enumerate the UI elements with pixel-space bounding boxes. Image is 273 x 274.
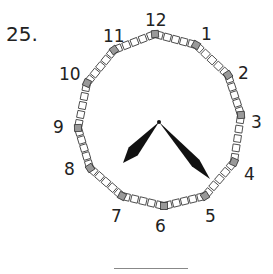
minute-tick <box>233 99 242 108</box>
minute-tick <box>80 92 88 100</box>
minute-tick <box>179 37 188 46</box>
hour-label-3: 3 <box>251 112 262 132</box>
minute-tick <box>130 195 138 203</box>
minute-tick <box>78 101 86 109</box>
hour-label-5: 5 <box>205 206 216 226</box>
minute-tick <box>147 199 155 207</box>
minute-tick <box>188 195 196 203</box>
hour-label-11: 11 <box>103 26 125 46</box>
minute-tick <box>138 34 147 43</box>
minute-tick <box>171 35 180 44</box>
hour-label-6: 6 <box>155 216 166 236</box>
center-pin <box>157 120 161 124</box>
minute-tick <box>215 174 225 184</box>
clock-face: 121234567891011 <box>0 0 273 274</box>
minute-hand <box>159 122 210 179</box>
minute-tick <box>82 152 91 161</box>
answer-blank-line[interactable] <box>114 268 188 269</box>
minute-tick <box>130 37 139 46</box>
hour-label-7: 7 <box>111 206 122 226</box>
minute-tick <box>235 125 243 133</box>
minute-tick <box>227 83 236 92</box>
minute-tick <box>77 110 85 118</box>
hour-tick <box>237 111 244 118</box>
hour-label-9: 9 <box>53 117 64 137</box>
hour-label-4: 4 <box>244 164 255 184</box>
minute-tick <box>139 197 147 205</box>
minute-tick <box>209 181 219 191</box>
hour-label-1: 1 <box>201 24 212 44</box>
hour-tick <box>151 30 158 37</box>
minute-tick <box>220 167 230 177</box>
hour-label-2: 2 <box>238 63 249 83</box>
minute-tick <box>230 91 239 100</box>
minute-tick <box>77 136 86 145</box>
minute-tick <box>180 197 188 205</box>
minute-tick <box>163 33 172 42</box>
minute-tick <box>234 135 242 143</box>
minute-tick <box>232 144 240 152</box>
hour-label-10: 10 <box>59 64 81 84</box>
hour-tick <box>161 203 168 210</box>
minute-tick <box>172 199 180 207</box>
minute-tick <box>80 144 89 153</box>
hour-label-12: 12 <box>145 10 167 30</box>
hour-label-8: 8 <box>64 159 75 179</box>
hour-hand <box>123 122 159 163</box>
tick-ring <box>74 30 244 209</box>
hour-tick <box>74 124 81 131</box>
